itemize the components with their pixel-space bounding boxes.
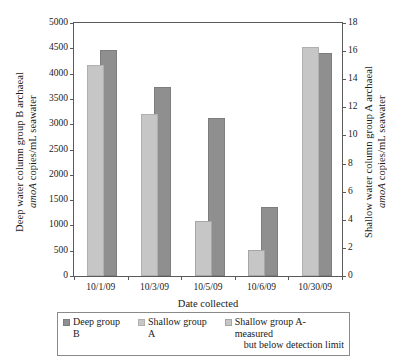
left-axis-title: Deep water column group B archaeal amoA … <box>14 24 39 280</box>
x-axis-tick <box>128 276 129 280</box>
x-axis-tick-label: 10/30/09 <box>298 282 332 292</box>
right-axis-tick-label: 12 <box>348 102 358 112</box>
bar-shallow-group-a <box>302 47 319 276</box>
right-axis-title: Shallow water column group A archaeal am… <box>363 24 388 280</box>
legend-swatch-deep-icon <box>63 319 70 326</box>
left-axis-tick-label: 4000 <box>49 69 68 79</box>
left-axis-tick <box>70 99 74 100</box>
legend-label: Shallow group A <box>148 316 216 339</box>
left-axis-tick <box>70 150 74 151</box>
right-axis-tick <box>342 164 346 165</box>
left-axis-tick-label: 3000 <box>49 119 68 129</box>
right-axis-tick-label: 6 <box>348 187 353 197</box>
x-axis-tick <box>181 276 182 280</box>
left-axis-tick-label: 0 <box>63 271 68 281</box>
left-axis-tick <box>70 175 74 176</box>
legend-item-shallow[interactable]: Shallow group A <box>138 316 216 339</box>
right-axis-tick <box>342 23 346 24</box>
left-axis-tick-label: 1000 <box>49 220 68 230</box>
bar-shallow-group-a <box>87 65 104 276</box>
left-axis-title-line2: copies/mL seawater <box>27 96 38 184</box>
left-axis-tick-label: 5000 <box>49 18 68 28</box>
right-axis-tick-label: 2 <box>348 243 353 253</box>
legend-label-line2: but below detection limit <box>235 339 344 351</box>
plot-inner: 0500100015002000250030003500400045005000… <box>74 23 342 276</box>
legend-row: Deep group BShallow group AShallow group… <box>63 316 344 351</box>
legend-swatch-shallowbd-icon <box>225 319 232 326</box>
right-axis-tick <box>342 51 346 52</box>
left-axis-tick-label: 1500 <box>49 195 68 205</box>
legend-item-deep[interactable]: Deep group B <box>63 316 129 339</box>
left-axis-tick-label: 3500 <box>49 94 68 104</box>
x-axis-tick-label: 10/5/09 <box>193 282 222 292</box>
left-axis-tick <box>70 251 74 252</box>
left-axis-tick-label: 4500 <box>49 43 68 53</box>
x-axis-tick <box>288 276 289 280</box>
right-axis-title-line1: Shallow water column group A archaeal <box>363 24 376 280</box>
left-axis-tick <box>70 48 74 49</box>
right-axis-tick-label: 16 <box>348 46 358 56</box>
left-axis-tick <box>70 200 74 201</box>
left-axis-title-italic: amoA <box>27 183 38 208</box>
legend-item-shallowbd[interactable]: Shallow group A-measuredbut below detect… <box>225 316 344 351</box>
x-axis-tick <box>235 276 236 280</box>
x-axis-tick <box>342 276 343 280</box>
right-axis-tick-label: 10 <box>348 130 358 140</box>
right-axis-tick <box>342 79 346 80</box>
right-axis-tick-label: 14 <box>348 74 358 84</box>
bar-shallow-group-a-below-detection <box>248 250 265 276</box>
left-axis-tick-label: 2500 <box>49 145 68 155</box>
left-axis-tick <box>70 23 74 24</box>
right-axis-tick <box>342 248 346 249</box>
left-axis-tick-label: 500 <box>54 246 68 256</box>
right-axis-tick-label: 0 <box>348 271 353 281</box>
plot-area: 0500100015002000250030003500400045005000… <box>73 22 343 277</box>
left-axis-tick <box>70 124 74 125</box>
chart-legend: Deep group BShallow group AShallow group… <box>57 312 350 356</box>
x-axis-tick-label: 10/6/09 <box>247 282 276 292</box>
bar-shallow-group-a <box>141 114 158 276</box>
legend-label: Shallow group A-measuredbut below detect… <box>235 316 344 351</box>
right-axis-title-line2: copies/mL seawater <box>376 96 387 184</box>
right-axis-tick-label: 4 <box>348 215 353 225</box>
legend-swatch-shallow-icon <box>138 319 145 326</box>
left-axis-tick-label: 2000 <box>49 170 68 180</box>
bar-shallow-group-a-below-detection <box>195 221 212 276</box>
right-axis-tick-label: 18 <box>348 18 358 28</box>
left-axis-tick <box>70 225 74 226</box>
right-axis-tick <box>342 192 346 193</box>
left-axis-tick <box>70 74 74 75</box>
right-axis-tick <box>342 107 346 108</box>
x-axis-tick-label: 10/1/09 <box>86 282 115 292</box>
legend-label: Deep group B <box>73 316 129 339</box>
x-axis-title: Date collected <box>73 298 343 309</box>
right-axis-tick <box>342 220 346 221</box>
right-axis-tick <box>342 135 346 136</box>
x-axis-tick-label: 10/3/09 <box>140 282 169 292</box>
right-axis-tick-label: 8 <box>348 159 353 169</box>
right-axis-title-italic: amoA <box>376 183 387 208</box>
x-axis-tick <box>74 276 75 280</box>
left-axis-title-line1: Deep water column group B archaeal <box>14 24 27 280</box>
